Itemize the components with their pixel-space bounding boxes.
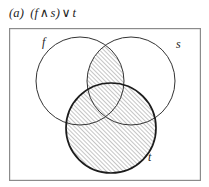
venn-diagram-canvas: f s t — [9, 28, 201, 181]
figure-caption: (a)(f∧s)∨t — [9, 3, 76, 23]
or-operator-glyph: ∨ — [60, 6, 72, 20]
set-label-s: s — [176, 37, 181, 51]
caption-operand-t: t — [72, 6, 76, 20]
figure-label: (a) — [9, 6, 24, 20]
venn-figure: (a)(f∧s)∨t — [0, 0, 209, 187]
venn-diagram-svg: f s t — [9, 28, 201, 181]
and-operator-glyph: ∧ — [38, 6, 50, 20]
